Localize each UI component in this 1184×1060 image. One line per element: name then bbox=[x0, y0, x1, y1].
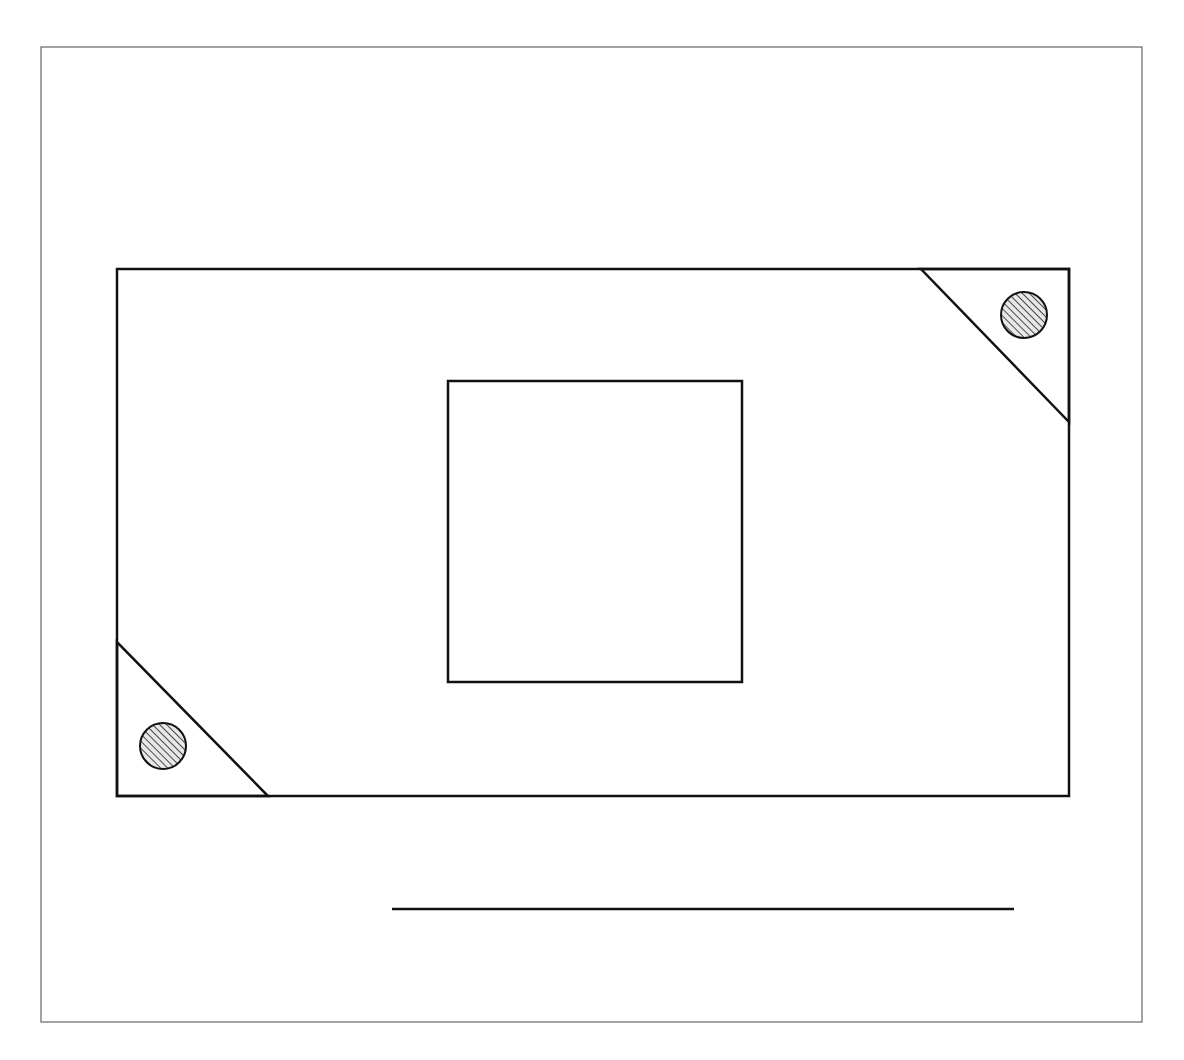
corner-triangle-bottom-left bbox=[117, 642, 268, 796]
diagram-canvas bbox=[0, 0, 1184, 1060]
inner-square bbox=[448, 381, 742, 682]
hatched-circle-icon-top-right bbox=[1001, 292, 1047, 338]
hatched-circle-icon-bottom-left bbox=[140, 723, 186, 769]
main-rectangle bbox=[117, 269, 1069, 796]
outer-frame bbox=[41, 47, 1142, 1022]
corner-triangle-top-right bbox=[921, 269, 1069, 422]
